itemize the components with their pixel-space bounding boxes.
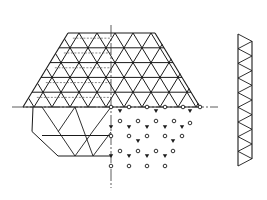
open-node-icon [145, 134, 149, 138]
grid-member [97, 33, 142, 107]
grid-member [79, 33, 124, 107]
filled-node-icon [171, 139, 175, 143]
grid-member [238, 78, 252, 85]
open-node-icon [127, 164, 131, 168]
grid-member [142, 59, 171, 107]
filled-node-icon [118, 109, 122, 113]
open-node-icon [163, 105, 167, 109]
open-node-icon [118, 119, 122, 123]
open-node-icon [145, 105, 149, 109]
grid-member [238, 129, 252, 136]
open-node-icon [127, 105, 131, 109]
open-node-icon [145, 164, 149, 168]
section-truss [238, 34, 252, 166]
open-node-icon [118, 149, 122, 153]
filled-node-icon [127, 125, 131, 129]
grid-member [47, 69, 70, 107]
grid-member [106, 33, 151, 107]
grid-member [178, 89, 189, 108]
grid-member [155, 33, 200, 107]
grid-member [238, 100, 252, 107]
open-node-icon [127, 134, 131, 138]
filled-node-icon [145, 154, 149, 158]
open-node-icon [109, 164, 113, 168]
grid-member [160, 74, 180, 107]
filled-node-icon [180, 125, 184, 129]
grid-member [151, 33, 196, 107]
grid-member [75, 107, 93, 156]
grid-member [238, 49, 252, 56]
open-node-icon [136, 119, 140, 123]
open-node-icon [172, 119, 176, 123]
grid-member [38, 84, 52, 107]
open-node-icon [163, 134, 167, 138]
lower-hexagon-outline [32, 107, 111, 156]
filled-node-icon [154, 109, 158, 113]
grid-member [238, 85, 252, 92]
grid-member [238, 41, 252, 48]
filled-node-icon [127, 154, 131, 158]
open-node-icon [180, 134, 184, 138]
grid-member [238, 71, 252, 78]
filled-node-icon [145, 125, 149, 129]
grid-member [65, 39, 106, 107]
grid-member [88, 33, 133, 107]
grid-member [124, 44, 162, 107]
open-node-icon [154, 119, 158, 123]
open-node-icon [181, 105, 185, 109]
grid-member [238, 122, 252, 129]
grid-member [238, 63, 252, 70]
grid-member [238, 137, 252, 144]
open-node-icon [171, 149, 175, 153]
grid-member [238, 93, 252, 100]
grid-member [52, 33, 97, 107]
grid-member [29, 98, 34, 107]
grid-member [115, 33, 160, 107]
diagram-svg [0, 0, 267, 200]
grid-member [238, 56, 252, 63]
node-layout [109, 105, 202, 168]
grid-member [238, 107, 252, 114]
open-node-icon [188, 121, 192, 125]
filled-node-icon [163, 125, 167, 129]
grid-member [238, 159, 252, 166]
grid-member [70, 33, 115, 107]
open-node-icon [109, 134, 113, 138]
open-node-icon [198, 105, 202, 109]
open-node-icon [154, 149, 158, 153]
grid-member [56, 54, 88, 107]
grid-member [93, 107, 111, 131]
grid-member [32, 107, 33, 132]
filled-node-icon [188, 109, 192, 113]
open-node-icon [109, 105, 113, 109]
grid-member [133, 33, 178, 107]
grid-member [58, 107, 75, 132]
open-node-icon [136, 149, 140, 153]
plan-grid [23, 33, 200, 107]
filled-node-icon [136, 139, 140, 143]
grid-member [75, 131, 93, 156]
open-node-icon [163, 164, 167, 168]
grid-member [238, 144, 252, 151]
grid-member [34, 33, 79, 107]
grid-member [238, 34, 252, 41]
filled-node-icon [109, 125, 113, 129]
grid-member [238, 151, 252, 158]
filled-node-icon [163, 154, 167, 158]
grid-member [238, 115, 252, 122]
space-grid-diagram: Triangular space grid: plan, node layout… [0, 0, 267, 200]
